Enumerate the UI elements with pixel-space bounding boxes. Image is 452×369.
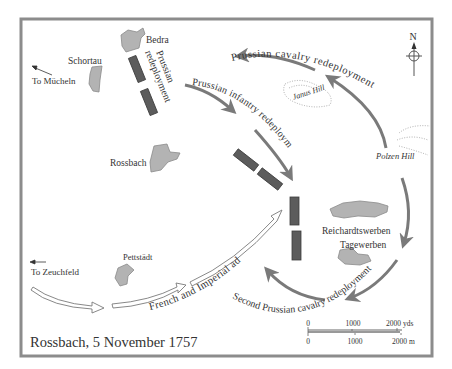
svg-text:1000: 1000 (346, 319, 361, 328)
svg-text:0: 0 (306, 337, 310, 346)
svg-text:2000 m: 2000 m (392, 337, 415, 346)
town-label-rossbach: Rossbach (110, 158, 147, 168)
town-label-pettstadt: Pettstädt (123, 252, 153, 262)
svg-text:1000: 1000 (348, 337, 363, 346)
direction-label-muecheln: To Mücheln (32, 76, 76, 86)
town-label-reichardtswerben: Reichardtswerben (322, 226, 391, 236)
town-label-schortau: Schortau (68, 56, 102, 66)
battle-map: N (0, 0, 452, 369)
svg-text:N: N (409, 31, 416, 42)
direction-label-zeuchfeld: To Zeuchfeld (31, 267, 80, 277)
hill-label-polzen: Polzen Hill (375, 151, 415, 161)
map-title: Rossbach, 5 November 1757 (30, 334, 198, 350)
town-label-tagewerben: Tagewerben (340, 240, 387, 250)
town-label-bedra: Bedra (146, 35, 169, 45)
svg-text:0: 0 (306, 319, 310, 328)
svg-text:2000 yds: 2000 yds (386, 319, 413, 328)
